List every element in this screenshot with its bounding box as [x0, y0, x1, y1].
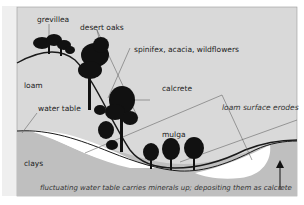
label-loam: loam — [24, 82, 43, 90]
label-desert-oaks: desert oaks — [80, 24, 124, 32]
caption: fluctuating water table carries minerals… — [40, 185, 292, 192]
label-clays: clays — [24, 160, 43, 168]
label-mulga: mulga — [162, 131, 186, 139]
label-spinifex: spinifex, acacia, wildflowers — [134, 46, 239, 54]
label-calcrete: calcrete — [162, 85, 192, 93]
left-margin — [2, 6, 17, 196]
label-water-table: water table — [38, 105, 81, 113]
label-loam-erodes: loam surface erodes — [222, 104, 299, 112]
label-grevillea: grevillea — [37, 16, 69, 24]
